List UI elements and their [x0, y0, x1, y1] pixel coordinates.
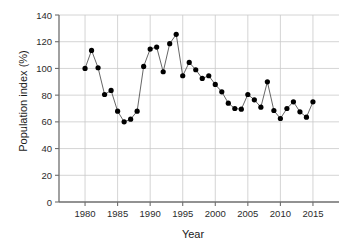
- x-tick-label: 1980: [74, 208, 95, 219]
- data-point: [245, 92, 250, 97]
- data-point: [141, 64, 146, 69]
- data-point: [128, 117, 133, 122]
- data-point: [154, 44, 159, 49]
- data-point: [226, 101, 231, 106]
- x-tick-label: 2005: [237, 208, 258, 219]
- data-point: [115, 109, 120, 114]
- data-point: [252, 97, 257, 102]
- data-point: [174, 32, 179, 37]
- data-point: [258, 105, 263, 110]
- y-tick-label: 0: [47, 197, 52, 208]
- y-tick-label: 120: [36, 36, 52, 47]
- data-point: [271, 108, 276, 113]
- data-point: [82, 66, 87, 71]
- data-point: [239, 107, 244, 112]
- x-axis-title: Year: [48, 228, 338, 240]
- y-tick-label: 140: [36, 10, 52, 21]
- data-point: [161, 69, 166, 74]
- x-tick-label: 1985: [107, 208, 128, 219]
- data-point: [304, 115, 309, 120]
- data-point: [102, 92, 107, 97]
- data-point: [284, 106, 289, 111]
- y-tick-label: 100: [36, 63, 52, 74]
- data-point: [310, 99, 315, 104]
- x-tick-label: 2010: [270, 208, 291, 219]
- line-chart-plot: 020406080100120140 198019851990199520002…: [0, 0, 347, 250]
- data-point: [213, 82, 218, 87]
- data-point: [219, 89, 224, 94]
- x-axis-ticks-group: 19801985199019952000200520102015: [74, 202, 323, 219]
- data-point: [291, 99, 296, 104]
- data-point: [206, 73, 211, 78]
- y-tick-label: 20: [41, 170, 52, 181]
- y-axis-title: Population index (%): [17, 31, 29, 171]
- data-point: [95, 65, 100, 70]
- chart-container: 020406080100120140 198019851990199520002…: [0, 0, 347, 250]
- data-point: [122, 119, 127, 124]
- y-tick-label: 80: [41, 90, 52, 101]
- data-point: [297, 109, 302, 114]
- data-point: [108, 88, 113, 93]
- data-point: [167, 41, 172, 46]
- data-point: [232, 106, 237, 111]
- x-tick-label: 2015: [302, 208, 323, 219]
- data-point: [89, 48, 94, 53]
- data-point: [187, 60, 192, 65]
- gridlines-group: [59, 15, 339, 202]
- x-tick-label: 1995: [172, 208, 193, 219]
- y-tick-label: 40: [41, 143, 52, 154]
- data-point: [135, 109, 140, 114]
- x-tick-label: 1990: [140, 208, 161, 219]
- data-point: [278, 116, 283, 121]
- data-point: [148, 46, 153, 51]
- data-point: [200, 76, 205, 81]
- x-tick-label: 2000: [205, 208, 226, 219]
- series-line-population-index: [85, 34, 313, 121]
- y-axis-ticks-group: 020406080100120140: [36, 10, 59, 208]
- data-point: [193, 67, 198, 72]
- y-tick-label: 60: [41, 116, 52, 127]
- data-point: [180, 73, 185, 78]
- data-point: [265, 79, 270, 84]
